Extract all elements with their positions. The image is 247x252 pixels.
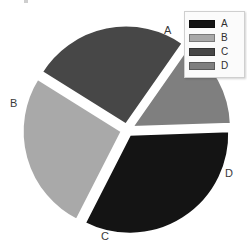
- legend-swatch-a: [189, 20, 215, 28]
- pie-chart-figure: A B C D A B C D: [0, 0, 247, 252]
- legend-label-d: D: [221, 61, 228, 71]
- legend-item-d[interactable]: D: [189, 59, 240, 72]
- legend-item-a[interactable]: A: [189, 17, 240, 30]
- pie-label-a: A: [164, 24, 172, 36]
- pie-label-d: D: [225, 167, 233, 179]
- chart-legend: A B C D: [184, 11, 245, 78]
- legend-swatch-b: [189, 34, 215, 42]
- legend-swatch-c: [189, 48, 215, 56]
- legend-item-c[interactable]: C: [189, 45, 240, 58]
- legend-swatch-d: [189, 62, 215, 70]
- pie-label-b: B: [10, 97, 18, 109]
- legend-label-a: A: [221, 19, 228, 29]
- legend-item-b[interactable]: B: [189, 31, 240, 44]
- legend-label-c: C: [221, 47, 228, 57]
- legend-label-b: B: [221, 33, 228, 43]
- pie-label-c: C: [101, 230, 109, 242]
